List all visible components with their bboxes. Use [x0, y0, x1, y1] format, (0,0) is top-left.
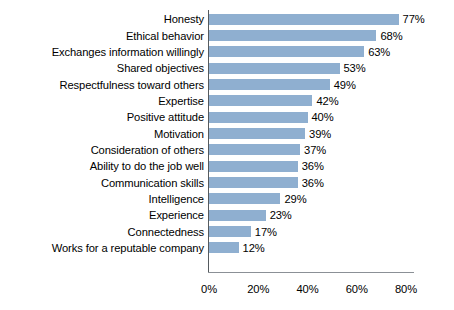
x-tick-label: 60%: [346, 282, 368, 296]
category-label: Consideration of others: [0, 144, 204, 156]
bar-area: 17%: [209, 223, 454, 239]
bar-area: 37%: [209, 142, 454, 158]
bar-area: 39%: [209, 125, 454, 141]
bar-value-label: 23%: [270, 209, 292, 221]
bar: [209, 210, 266, 221]
bar: [209, 226, 251, 237]
chart-rows: Honesty77%Ethical behavior68%Exchanges i…: [0, 11, 454, 256]
category-label: Experience: [0, 209, 204, 221]
bar-value-label: 77%: [403, 13, 425, 25]
x-tick-label: 20%: [247, 282, 269, 296]
bar: [209, 46, 364, 57]
category-label: Shared objectives: [0, 62, 204, 74]
bar: [209, 128, 305, 139]
bar-value-label: 12%: [243, 242, 265, 254]
chart-row: Consideration of others37%: [0, 142, 454, 158]
chart-row: Positive attitude40%: [0, 109, 454, 125]
x-axis-tick-labels: 0%20%40%60%80%: [0, 282, 454, 298]
chart-row: Intelligence29%: [0, 191, 454, 207]
category-label: Positive attitude: [0, 111, 204, 123]
bar-area: 63%: [209, 44, 454, 60]
chart-row: Respectfulness toward others49%: [0, 76, 454, 92]
bar-value-label: 63%: [368, 46, 390, 58]
x-axis-line: [208, 272, 414, 273]
bar-value-label: 36%: [302, 177, 324, 189]
x-tick-label: 0%: [201, 282, 217, 296]
bar-value-label: 39%: [309, 128, 331, 140]
bar-value-label: 49%: [334, 79, 356, 91]
bar: [209, 63, 340, 74]
bar-value-label: 36%: [302, 160, 324, 172]
bar-chart: Honesty77%Ethical behavior68%Exchanges i…: [0, 0, 454, 310]
bar: [209, 112, 308, 123]
bar: [209, 79, 330, 90]
bar-area: 49%: [209, 76, 454, 92]
chart-row: Works for a reputable company12%: [0, 240, 454, 256]
bar-value-label: 29%: [284, 193, 306, 205]
bar-area: 53%: [209, 60, 454, 76]
x-tick-label: 40%: [296, 282, 318, 296]
bar: [209, 144, 300, 155]
bar: [209, 242, 239, 253]
bar-value-label: 40%: [312, 111, 334, 123]
bar: [209, 161, 298, 172]
bar: [209, 30, 376, 41]
category-label: Honesty: [0, 13, 204, 25]
chart-row: Ethical behavior68%: [0, 27, 454, 43]
bar-area: 23%: [209, 207, 454, 223]
chart-row: Shared objectives53%: [0, 60, 454, 76]
bar-area: 12%: [209, 240, 454, 256]
bar-area: 77%: [209, 11, 454, 27]
category-label: Ethical behavior: [0, 30, 204, 42]
bar-value-label: 42%: [316, 95, 338, 107]
bar: [209, 193, 280, 204]
category-label: Expertise: [0, 95, 204, 107]
category-label: Motivation: [0, 128, 204, 140]
category-label: Intelligence: [0, 193, 204, 205]
bar-area: 40%: [209, 109, 454, 125]
category-label: Communication skills: [0, 177, 204, 189]
bar: [209, 95, 312, 106]
category-label: Connectedness: [0, 226, 204, 238]
y-axis-line: [208, 10, 209, 273]
chart-row: Motivation39%: [0, 125, 454, 141]
bar-area: 29%: [209, 191, 454, 207]
x-tick-label: 80%: [395, 282, 417, 296]
bar-area: 36%: [209, 158, 454, 174]
bar: [209, 14, 399, 25]
bar-value-label: 37%: [304, 144, 326, 156]
category-label: Respectfulness toward others: [0, 79, 204, 91]
chart-row: Communication skills36%: [0, 174, 454, 190]
bar: [209, 177, 298, 188]
bar-area: 36%: [209, 174, 454, 190]
chart-row: Ability to do the job well36%: [0, 158, 454, 174]
chart-row: Expertise42%: [0, 93, 454, 109]
bar-value-label: 53%: [344, 62, 366, 74]
bar-value-label: 68%: [380, 30, 402, 42]
chart-row: Honesty77%: [0, 11, 454, 27]
bar-value-label: 17%: [255, 226, 277, 238]
chart-row: Exchanges information willingly63%: [0, 44, 454, 60]
category-label: Ability to do the job well: [0, 160, 204, 172]
chart-row: Experience23%: [0, 207, 454, 223]
category-label: Exchanges information willingly: [0, 46, 204, 58]
bar-area: 42%: [209, 93, 454, 109]
chart-row: Connectedness17%: [0, 223, 454, 239]
category-label: Works for a reputable company: [0, 242, 204, 254]
bar-area: 68%: [209, 27, 454, 43]
